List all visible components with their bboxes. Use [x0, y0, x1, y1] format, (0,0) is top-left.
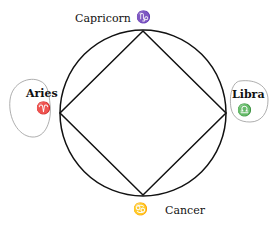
aries-icon: ♈	[36, 101, 51, 115]
libra-label: Libra	[232, 88, 265, 101]
libra-icon: ♎	[237, 103, 252, 117]
aries-label: Aries	[26, 87, 58, 100]
cancer-icon: ♋	[133, 202, 148, 216]
zodiac-circle	[60, 30, 226, 196]
capricorn-icon: ♑	[136, 10, 151, 24]
cardinal-square	[60, 31, 226, 195]
cancer-label: Cancer	[165, 204, 205, 217]
capricorn-label: Capricorn	[75, 12, 131, 25]
